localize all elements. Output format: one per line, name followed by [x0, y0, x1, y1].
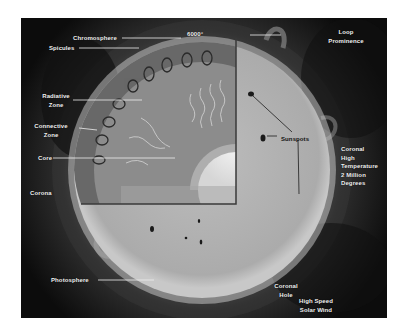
- label-spicules: Spicules: [49, 44, 74, 53]
- label-loop-prominence: Loop Prominence: [311, 28, 381, 45]
- label-corona: Corona: [30, 189, 52, 198]
- sun-diagram: Chromosphere 6000° Loop Prominence Spicu…: [21, 18, 387, 318]
- label-photosphere: Photosphere: [51, 276, 89, 285]
- label-convective-zone: Connective Zone: [25, 122, 77, 139]
- label-radiative-zone: Radiative Zone: [31, 92, 81, 109]
- label-core: Core: [38, 154, 52, 163]
- sun-illustration: [21, 18, 387, 318]
- label-temperature-6000: 6000°: [187, 30, 203, 39]
- label-chromosphere: Chromosphere: [73, 34, 117, 43]
- label-sunspots: Sunspots: [281, 135, 309, 144]
- label-coronal-high-temperature: Coronal High Temperature 2 Million Degre…: [341, 145, 378, 188]
- label-high-speed-solar-wind: High Speed Solar Wind: [291, 297, 341, 314]
